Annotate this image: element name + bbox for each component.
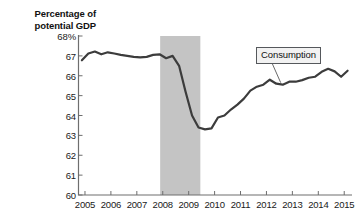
callout-leader-line <box>272 63 281 83</box>
plot-area <box>0 0 361 221</box>
chart-figure: Percentage of potential GDP 606162636465… <box>0 0 361 221</box>
series-label-consumption: Consumption <box>256 47 321 64</box>
recession-shading <box>160 36 200 195</box>
